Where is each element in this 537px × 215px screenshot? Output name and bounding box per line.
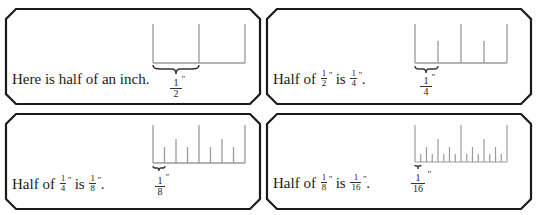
fraction: 12 bbox=[321, 69, 328, 88]
panel-sixteenth-inch: Half of 18″ is 116″. 1 16 ″ bbox=[265, 112, 533, 211]
panel-sentence: Here is half of an inch. bbox=[12, 72, 149, 87]
ruler-label: 1 16 ″ bbox=[411, 173, 425, 194]
panel-half-inch: Here is half of an inch. 1 2 ″ bbox=[4, 7, 262, 106]
sentence-text: Here is half of an inch. bbox=[12, 71, 149, 87]
ruler-label: 1 8 ″ bbox=[155, 176, 165, 197]
fraction: 116 bbox=[350, 173, 361, 192]
panel-eighth-inch: Half of 14″ is 18″. 1 8 ″ bbox=[4, 112, 262, 211]
fraction: 14 bbox=[60, 174, 67, 193]
panel-sentence: Half of 18″ is 116″. bbox=[273, 175, 370, 194]
fraction: 14 bbox=[350, 69, 357, 88]
ruler-sixteenth-inch bbox=[414, 124, 514, 174]
fraction: 18 bbox=[321, 173, 328, 192]
ruler-label: 1 4 ″ bbox=[420, 76, 432, 97]
panel-sentence: Half of 14″ is 18″. bbox=[12, 176, 104, 195]
brace-icon bbox=[414, 164, 424, 172]
ruler-label: 1 2 ″ bbox=[170, 78, 182, 99]
panel-sentence: Half of 12″ is 14″. bbox=[273, 71, 365, 90]
panel-quarter-inch: Half of 12″ is 14″. 1 4 ″ bbox=[265, 7, 533, 106]
fraction: 18 bbox=[89, 174, 96, 193]
